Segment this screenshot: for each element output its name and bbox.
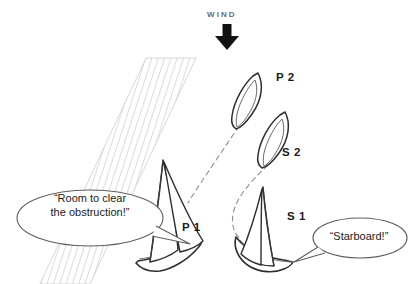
boat-s1 xyxy=(235,187,293,272)
port-boat-hail-text: “Room to clear the obstruction!” xyxy=(20,192,160,219)
boat-label-s2: S 2 xyxy=(282,146,301,158)
boat-label-p2: P 2 xyxy=(276,71,295,83)
boat-s2 xyxy=(258,112,289,168)
port-boat-track xyxy=(188,126,239,203)
starboard-boat-hail-text: “Starboard!” xyxy=(313,230,405,244)
wind-arrow-icon xyxy=(215,24,239,50)
boat-label-p1: P 1 xyxy=(182,221,201,233)
wind-label: WIND xyxy=(207,10,237,19)
boat-p2 xyxy=(232,73,262,129)
diagram-canvas: WIND P 2 S 2 P 1 S 1 “Room to clear the … xyxy=(0,0,413,284)
boat-label-s1: S 1 xyxy=(287,210,306,222)
